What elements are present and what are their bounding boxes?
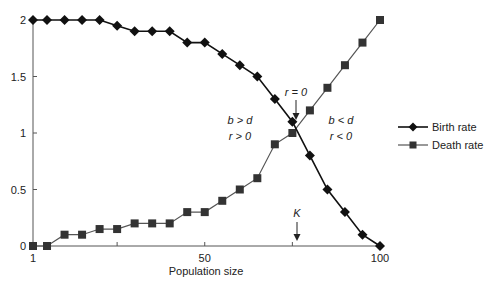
birth-rate-point bbox=[165, 26, 175, 36]
death-rate-point bbox=[43, 242, 51, 250]
death-rate-point bbox=[148, 219, 156, 227]
legend-entry-death-rate: Death rate bbox=[398, 139, 483, 151]
birth-rate-point bbox=[375, 241, 385, 251]
legend-entry-birth-rate: Birth rate bbox=[398, 121, 477, 133]
death-rate-point bbox=[271, 140, 279, 148]
x-axis-title: Population size bbox=[169, 265, 244, 277]
death-rate-point bbox=[131, 219, 139, 227]
birth-rate-point bbox=[28, 15, 38, 25]
y-tick-label: 1.5 bbox=[11, 71, 26, 83]
birth-rate-point bbox=[112, 21, 122, 31]
birth-rate-point bbox=[305, 151, 315, 161]
x-tick-label: 100 bbox=[371, 252, 389, 264]
death-rate-point bbox=[201, 208, 209, 216]
death-rate-point bbox=[376, 16, 384, 24]
birth-rate-point bbox=[200, 38, 210, 48]
y-tick-label: 0 bbox=[20, 240, 26, 252]
death-rate-point bbox=[218, 197, 226, 205]
legend-square-icon bbox=[410, 142, 417, 149]
y-tick-label: 0.5 bbox=[11, 184, 26, 196]
annotation-right-line1: b < d bbox=[329, 114, 355, 126]
birth-rate-point bbox=[77, 15, 87, 25]
death-rate-point bbox=[96, 225, 104, 233]
birth-rate-point bbox=[60, 15, 70, 25]
legend-label-death-rate: Death rate bbox=[432, 139, 483, 151]
death-rate-point bbox=[253, 174, 261, 182]
birth-rate-point bbox=[235, 60, 245, 70]
birth-rate-point bbox=[95, 15, 105, 25]
death-rate-point bbox=[78, 231, 86, 239]
y-tick-label: 2 bbox=[20, 14, 26, 26]
death-rate-point bbox=[166, 219, 174, 227]
annotations: r = 0 b > d r > 0 b < d r < 0 K bbox=[228, 86, 355, 241]
annotation-k: K bbox=[293, 207, 301, 219]
y-tick-label: 1 bbox=[20, 127, 26, 139]
birth-rate-point bbox=[217, 49, 227, 59]
death-rate-point bbox=[61, 231, 69, 239]
death-rate-point bbox=[288, 129, 296, 137]
annotation-left-line1: b > d bbox=[228, 114, 254, 126]
annotation-right-line2: r < 0 bbox=[330, 130, 353, 142]
legend-diamond-icon bbox=[409, 123, 418, 132]
death-rate-point bbox=[323, 84, 331, 92]
death-rate-point bbox=[358, 39, 366, 47]
death-rate-point bbox=[236, 186, 244, 194]
legend: Birth rate Death rate bbox=[398, 121, 483, 151]
k-arrow-head bbox=[294, 234, 301, 241]
chart: 00.511.52 150100 Population size r = 0 b… bbox=[0, 0, 490, 289]
death-rate-point bbox=[113, 225, 121, 233]
x-tick-label: 50 bbox=[199, 252, 211, 264]
death-rate-point bbox=[341, 61, 349, 69]
birth-rate-point bbox=[130, 26, 140, 36]
death-rate-point bbox=[183, 208, 191, 216]
legend-label-birth-rate: Birth rate bbox=[432, 121, 477, 133]
annotation-left-line2: r > 0 bbox=[229, 130, 252, 142]
annotation-r-zero: r = 0 bbox=[285, 86, 308, 98]
x-ticks: 150100 bbox=[30, 242, 389, 264]
death-rate-point bbox=[306, 106, 314, 114]
birth-rate-point bbox=[42, 15, 52, 25]
x-tick-label: 1 bbox=[30, 252, 36, 264]
death-rate-point bbox=[29, 242, 37, 250]
birth-rate-point bbox=[182, 38, 192, 48]
birth-rate-point bbox=[147, 26, 157, 36]
